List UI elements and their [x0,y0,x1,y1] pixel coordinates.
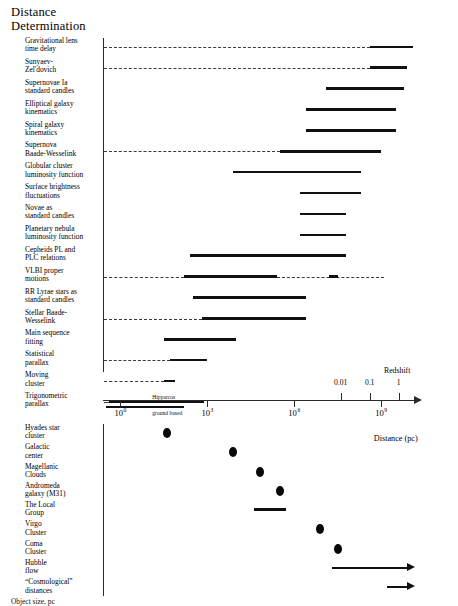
object-row: VirgoCluster [0,520,458,539]
method-range-bar [300,213,346,216]
method-row: Movingcluster [0,372,458,393]
method-label: Planetary nebulaluminosity function [25,225,113,242]
method-row: Stellar Baade-Wesselink [0,310,458,331]
method-label-line: Baade-Wesselink [25,150,113,158]
method-label: Novae asstandard candles [25,204,113,221]
method-leader-dash [104,381,164,382]
method-range-bar [170,359,208,362]
object-marker-dot [334,544,342,554]
object-label: ComaCluster [25,540,115,557]
object-marker-arrow-line [387,586,407,588]
object-label: VirgoCluster [25,520,115,537]
method-label-line: fitting [25,338,113,346]
object-row: “Cosmological”distances [0,578,458,597]
object-label: MagellanicClouds [25,463,115,480]
object-label: Hyades starcluster [25,424,115,441]
title-line-1: Distance [11,6,191,20]
object-label-line: center [25,452,115,460]
method-label: Statisticalparallax [25,350,113,367]
method-leader-dash [104,47,370,48]
method-label-line: cluster [25,380,113,388]
methods-panel: Gravitational lenstime delaySunyaev-Zel'… [0,38,458,414]
method-label-line: standard candles [25,296,113,304]
method-row: SupernovaBaade-Wesselink [0,142,458,163]
object-marker-dot [229,447,237,457]
object-marker-dot [316,524,324,534]
method-label: Sunyaev-Zel'dovich [25,58,113,75]
method-range-bar [370,66,408,69]
bottom-caption: Object size, pc [11,597,55,606]
object-label-line: Cluster [25,529,115,537]
object-row: ComaCluster [0,540,458,559]
method-label: VLBI propermotions [25,267,113,284]
object-row: Hubbleflow [0,559,458,578]
method-leader-dash [104,151,280,152]
method-row: Surface brightnessfluctuations [0,184,458,205]
method-row: RR Lyrae stars asstandard candles [0,289,458,310]
object-marker-dot [163,428,171,438]
object-label: The LocalGroup [25,501,115,518]
object-label-line: Group [25,509,115,517]
page-title: Distance Determination [11,6,191,33]
method-label: SupernovaBaade-Wesselink [25,141,113,158]
method-label-line: parallax [25,400,113,408]
method-label-line: kinematics [25,129,113,137]
method-row: Gravitational lenstime delay [0,38,458,59]
method-label-line: kinematics [25,108,113,116]
method-row: Cepheids PL andPLC relations [0,247,458,268]
method-range-bar [184,275,277,278]
method-label: Gravitational lenstime delay [25,37,113,54]
method-label: Stellar Baade-Wesselink [25,309,113,326]
object-row: MagellanicClouds [0,463,458,482]
method-label-line: motions [25,275,113,283]
object-row: Hyades starcluster [0,424,458,443]
method-row: Spiral galaxykinematics [0,122,458,143]
method-range-bar [280,150,381,153]
object-label-line: Cluster [25,548,115,556]
object-row: The LocalGroup [0,501,458,520]
method-label-line: standard candles [25,212,113,220]
object-label: Hubbleflow [25,559,115,576]
method-extra-segment [329,275,338,278]
method-row: Globular clusterluminosity function [0,163,458,184]
object-label: Galacticcenter [25,443,115,460]
method-sub-caption: ground based [152,410,182,416]
method-leader-dash [104,360,170,361]
method-label: Elliptical galaxykinematics [25,100,113,117]
method-label: Spiral galaxykinematics [25,121,113,138]
method-range-bar-secondary [106,406,184,408]
method-range-bar [190,254,347,257]
method-range-bar [193,296,306,299]
method-range-bar [326,87,404,90]
object-row: Andromedagalaxy (M31) [0,482,458,501]
method-leader-dash [104,319,202,320]
method-row: Supernovae Iastandard candles [0,80,458,101]
method-range-bar [370,46,413,49]
method-range-bar [306,108,396,111]
method-range-bar [164,338,236,341]
method-label-line: PLC relations [25,254,113,262]
method-label: Trigonometricparallax [25,392,113,409]
method-label-line: time delay [25,45,113,53]
method-range-bar [164,380,176,383]
object-label-line: Clouds [25,471,115,479]
method-label-line: parallax [25,359,113,367]
object-marker-arrow-head [407,582,415,590]
method-label-line: standard candles [25,87,113,95]
method-label: Globular clusterluminosity function [25,162,113,179]
object-marker-arrow-line [332,567,407,569]
method-row: TrigonometricparallaxHipparcosground bas… [0,393,458,414]
object-label: Andromedagalaxy (M31) [25,482,115,499]
title-line-2: Determination [11,20,191,34]
object-label-line: galaxy (M31) [25,490,115,498]
method-row: Sunyaev-Zel'dovich [0,59,458,80]
object-label: “Cosmological”distances [25,578,115,595]
object-label-line: flow [25,567,115,575]
method-label: Main sequencefitting [25,329,113,346]
method-label: Surface brightnessfluctuations [25,183,113,200]
method-range-bar [306,129,396,132]
method-range-bar [300,192,361,195]
method-range-bar [109,401,205,404]
method-range-bar [202,317,306,320]
